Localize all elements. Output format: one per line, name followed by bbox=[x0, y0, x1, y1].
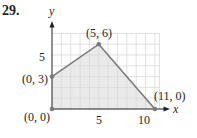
vertex-0-0 bbox=[50, 107, 55, 112]
y-tick-5: 5 bbox=[39, 50, 45, 64]
y-axis-arrow-icon bbox=[50, 21, 55, 28]
vertex-0-3 bbox=[50, 74, 55, 79]
vertex-5-6 bbox=[96, 42, 101, 47]
feasible-region-graph: y x 5 10 5 (0, 0) (0, 3) (5, 6) (11, 0) bbox=[0, 0, 197, 138]
x-tick-10: 10 bbox=[138, 113, 150, 127]
x-axis-label: x bbox=[172, 102, 179, 116]
x-axis-arrow-icon bbox=[164, 107, 171, 112]
vertex-label-5-6: (5, 6) bbox=[86, 26, 112, 40]
vertex-11-0 bbox=[153, 107, 158, 112]
y-axis-label: y bbox=[48, 4, 55, 18]
x-tick-5: 5 bbox=[96, 113, 102, 127]
vertex-label-0-3: (0, 3) bbox=[22, 72, 48, 86]
vertex-label-0-0: (0, 0) bbox=[24, 110, 50, 124]
vertex-label-11-0: (11, 0) bbox=[154, 89, 186, 103]
